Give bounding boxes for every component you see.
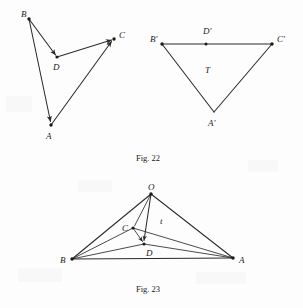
vertex-dot-C [112,37,115,40]
fig-22-left-shape: B D C A [21,9,126,141]
vertex-label-C-prime: C' [277,34,286,44]
vertex-label-B-fig23: B [60,255,66,265]
vertex-dot-C-prime [270,42,273,45]
edge-Aprime-to-Cprime [214,44,272,112]
vertex-dot-A [49,123,52,126]
vertex-dot-B-fig23 [70,257,73,260]
figure-caption-22: Fig. 22 [136,153,160,163]
vertex-dot-B-prime [160,42,163,45]
midpoint-label-D-prime: D' [202,26,212,36]
vertex-dot-D [55,55,58,58]
edge-O-to-B [72,194,151,259]
figure-canvas: B D C A B' C' A' D' T Fig. 22 [0,0,303,308]
edge-A-to-C [51,42,112,126]
vertex-label-C: C [119,30,126,40]
vertex-dot-C-fig23 [131,226,134,229]
figure-page: B D C A B' C' A' D' T Fig. 22 [0,0,303,308]
vertex-label-D: D [52,62,60,72]
vertex-dot-O [149,192,152,195]
vertex-label-B-prime: B' [150,34,158,44]
fig-23-shape: O B A C D t [60,182,245,265]
vector-label-t: t [160,216,163,226]
vertex-dot-D-fig23 [142,242,145,245]
interior-label-T: T [205,65,211,75]
vertex-label-A: A [45,131,52,141]
edge-D-to-A [144,244,233,258]
edge-O-to-A [151,194,233,258]
edge-D-to-C [57,40,112,57]
figure-caption-23: Fig. 23 [136,284,160,294]
vertex-label-C-fig23: C [122,223,129,233]
vertex-label-D-fig23: D [145,248,153,258]
fig-22-right-shape: B' C' A' D' T [150,26,286,128]
edge-B-to-D [72,244,144,259]
midpoint-dot-D-prime [205,43,208,46]
edge-B-to-A [72,258,233,259]
vertex-dot-B [27,17,30,20]
vertex-label-B: B [21,9,27,19]
vertex-label-A-prime: A' [207,118,216,128]
edge-Bprime-to-Aprime [162,44,214,112]
vertex-label-A-fig23: A [238,255,245,265]
vertex-label-O: O [148,182,155,192]
vertex-dot-A-fig23 [231,256,234,259]
